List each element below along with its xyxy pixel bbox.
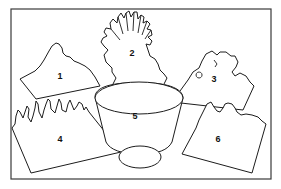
piece-1-label: 1 bbox=[57, 71, 62, 81]
piece-5-label: 5 bbox=[132, 111, 137, 121]
piece-3: 3 bbox=[172, 51, 254, 110]
piece-4-label: 4 bbox=[57, 134, 62, 144]
piece-6: 6 bbox=[182, 102, 266, 173]
piece-3-label: 3 bbox=[211, 74, 216, 84]
piece-1: 1 bbox=[20, 43, 100, 99]
piece-2-label: 2 bbox=[129, 48, 134, 58]
piece-2: 2 bbox=[101, 11, 167, 94]
piece-6-label: 6 bbox=[215, 134, 220, 144]
diagram-figure: 1 4 3 6 2 5 bbox=[0, 0, 281, 189]
